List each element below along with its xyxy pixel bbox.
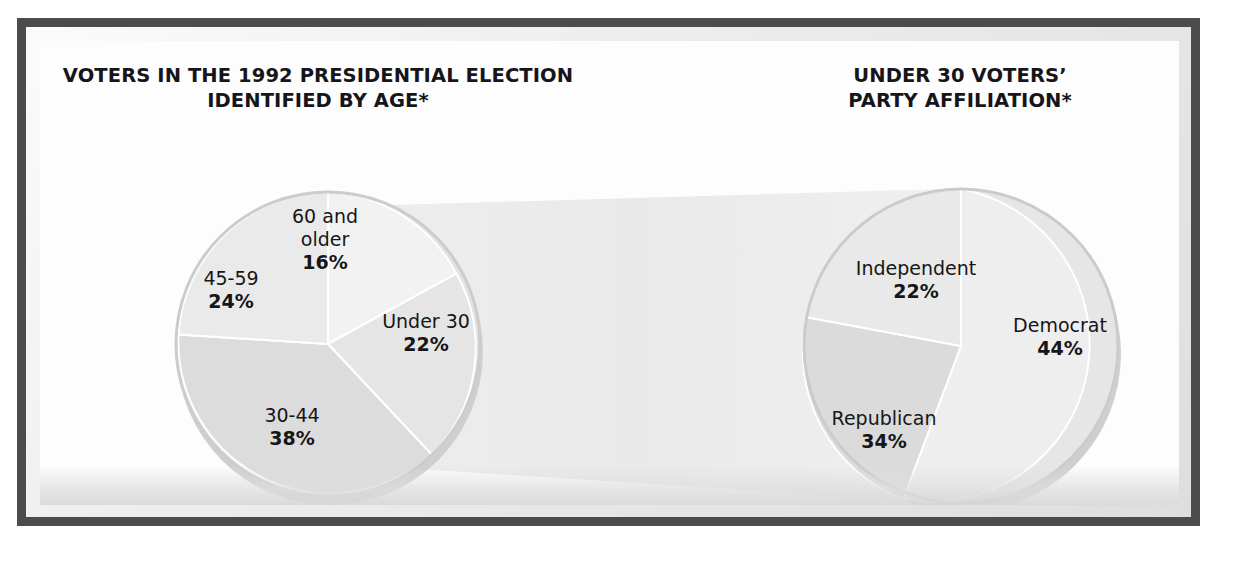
- pie-charts-svg: [40, 41, 1179, 505]
- left-pie-chart: [176, 192, 483, 505]
- poster-page: VOTERS IN THE 1992 PRESIDENTIAL ELECTION…: [0, 0, 1236, 570]
- poster-frame-border: VOTERS IN THE 1992 PRESIDENTIAL ELECTION…: [17, 18, 1200, 526]
- poster-frame-bevel: VOTERS IN THE 1992 PRESIDENTIAL ELECTION…: [26, 27, 1191, 517]
- left-pie-slice-45-59: [179, 192, 329, 344]
- chart-canvas: VOTERS IN THE 1992 PRESIDENTIAL ELECTION…: [40, 41, 1179, 505]
- right-pie-chart: [803, 189, 1121, 505]
- pie-charts-figure: 60 and older 16% Under 30 22% 30-44 38% …: [40, 41, 1179, 505]
